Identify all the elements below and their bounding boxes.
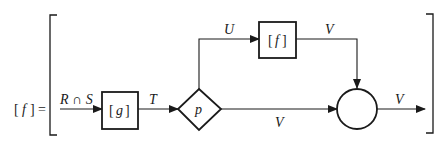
right-bracket	[426, 14, 433, 133]
g-box-open: [	[109, 103, 114, 118]
lhs-open-bracket: [	[14, 102, 19, 117]
input-label: R ∩ S	[59, 92, 93, 107]
g-box: [ g ]	[102, 92, 138, 129]
f-box-open: [	[268, 33, 273, 48]
join-circle	[337, 89, 377, 129]
predicate-label: p	[194, 102, 202, 117]
lhs-function-name: f	[22, 102, 28, 117]
p-to-f-arrow	[199, 39, 259, 89]
g-box-label: g	[116, 103, 123, 118]
flow-diagram: [ f ] = R ∩ S [ g ] T p U [ f ] V V V	[0, 0, 448, 141]
f-to-join-arrow	[296, 39, 357, 88]
p-to-join-label: V	[275, 115, 285, 130]
g-to-p-label: T	[149, 92, 158, 107]
f-to-join-label: V	[325, 22, 335, 37]
equals-sign: =	[38, 102, 46, 117]
p-to-f-label: U	[224, 22, 235, 37]
g-box-close: ]	[125, 103, 130, 118]
predicate-diamond: p	[178, 89, 221, 130]
lhs-close-bracket: ]	[30, 102, 35, 117]
lhs-expression: [ f ] =	[14, 102, 46, 117]
f-box-close: ]	[282, 33, 287, 48]
f-box: [ f ]	[259, 22, 296, 58]
left-bracket	[50, 15, 57, 135]
output-label: V	[395, 92, 405, 107]
